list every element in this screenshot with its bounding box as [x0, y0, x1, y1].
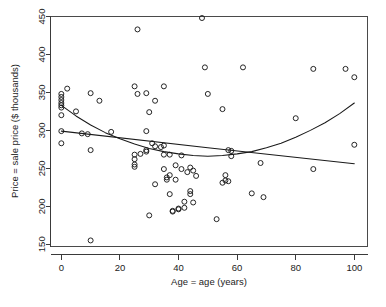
data-point: [182, 199, 187, 204]
data-point: [205, 91, 210, 96]
data-point: [135, 91, 140, 96]
data-point: [153, 144, 158, 149]
y-tick-label: 400: [36, 47, 47, 63]
data-point: [59, 113, 64, 118]
data-point: [258, 161, 263, 166]
plot-svg: 150200250300350400450 020406080100 Age =…: [0, 0, 386, 307]
data-point: [185, 170, 190, 175]
data-point: [194, 173, 199, 178]
data-point: [214, 217, 219, 222]
data-point: [191, 200, 196, 205]
data-point: [220, 107, 225, 112]
data-point: [147, 110, 152, 115]
data-point: [65, 86, 70, 91]
data-point: [109, 129, 114, 134]
plot-frame: [51, 17, 368, 247]
data-point: [188, 192, 193, 197]
x-tick-label: 40: [173, 262, 184, 273]
data-point: [135, 27, 140, 32]
data-point: [188, 165, 193, 170]
x-tick-label: 100: [346, 262, 362, 273]
x-axis-title: Age = age (years): [171, 276, 247, 287]
fitted-curves: [61, 103, 354, 164]
data-point: [352, 142, 357, 147]
data-point: [147, 213, 152, 218]
x-tick-label: 60: [232, 262, 243, 273]
data-point: [132, 84, 137, 89]
linear-fit: [61, 131, 354, 164]
data-point: [73, 109, 78, 114]
y-tick-label: 200: [36, 198, 47, 214]
data-point: [161, 84, 166, 89]
y-tick-label: 450: [36, 9, 47, 25]
y-axis-title: Price = sale price ($ thousands): [9, 64, 20, 198]
data-point: [97, 98, 102, 103]
y-tick-label: 350: [36, 84, 47, 100]
data-point: [293, 116, 298, 121]
data-point: [153, 182, 158, 187]
x-axis-ticks: [61, 255, 354, 260]
data-point: [144, 91, 149, 96]
data-point: [88, 238, 93, 243]
data-point: [153, 98, 158, 103]
data-point: [173, 163, 178, 168]
data-point: [343, 66, 348, 71]
data-point: [179, 167, 184, 172]
data-point: [223, 173, 228, 178]
y-tick-label: 300: [36, 122, 47, 138]
x-tick-label: 80: [290, 262, 301, 273]
y-axis-tick-labels: 150200250300350400450: [36, 9, 47, 253]
data-point: [311, 167, 316, 172]
data-point: [138, 151, 143, 156]
data-point: [179, 153, 184, 158]
data-point: [167, 192, 172, 197]
data-point: [311, 66, 316, 71]
data-point: [226, 179, 231, 184]
x-tick-label: 20: [115, 262, 126, 273]
data-point: [88, 91, 93, 96]
data-point: [191, 168, 196, 173]
y-tick-label: 150: [36, 236, 47, 252]
data-point: [240, 65, 245, 70]
x-axis-tick-labels: 020406080100: [59, 262, 363, 273]
data-point: [161, 167, 166, 172]
data-point: [173, 177, 178, 182]
data-point: [59, 141, 64, 146]
data-point: [161, 152, 166, 157]
data-point: [352, 75, 357, 80]
x-tick-label: 0: [59, 262, 64, 273]
data-point: [144, 129, 149, 134]
y-tick-label: 250: [36, 160, 47, 176]
data-point: [88, 148, 93, 153]
data-point: [202, 65, 207, 70]
scatter-plot-figure: 150200250300350400450 020406080100 Age =…: [0, 0, 386, 307]
data-point: [249, 191, 254, 196]
data-point: [261, 195, 266, 200]
data-point: [182, 205, 187, 210]
